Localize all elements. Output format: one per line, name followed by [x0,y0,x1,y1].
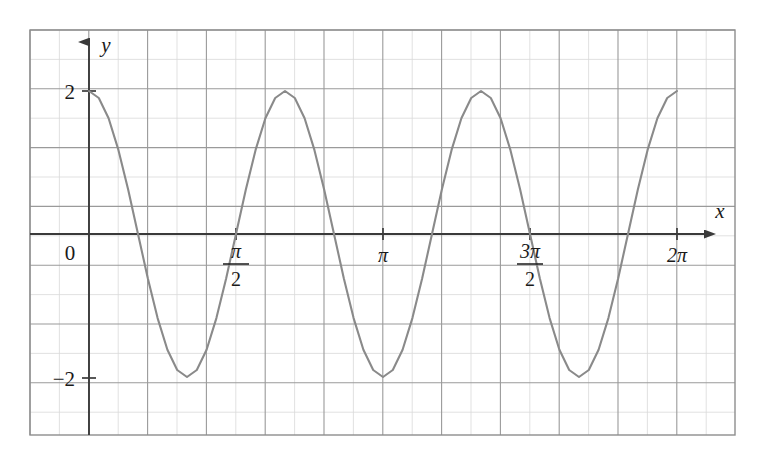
graph-figure: 0yxπ2π3π22π2−2 [0,0,759,463]
x-tick-label-2π: 2π [667,244,688,266]
x-tick-label-origin: 0 [65,241,76,265]
x-tick-label-π: π [378,244,389,266]
x-axis-label: x [714,199,725,223]
x-tick-label-denominator: 2 [525,268,535,290]
figure-background [0,0,759,463]
x-tick-label-denominator: 2 [231,268,241,290]
y-axis-label: y [99,33,111,57]
coordinate-plane-svg: 0yxπ2π3π22π2−2 [0,0,759,463]
y-tick-label-2: 2 [65,80,76,104]
y-tick-label--2: −2 [53,367,75,391]
x-tick-label-numerator: 3π [519,240,541,262]
x-tick-label-numerator: π [231,240,242,262]
